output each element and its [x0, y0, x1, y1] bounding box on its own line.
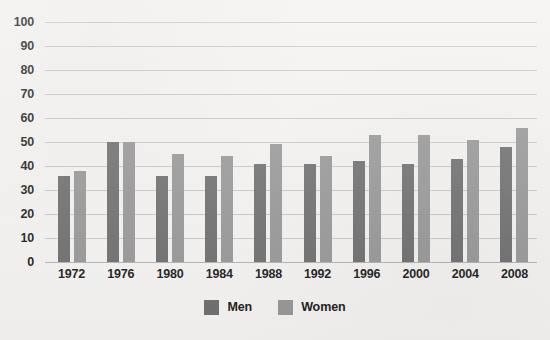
y-tick-label-0: 0 — [27, 256, 34, 269]
bar-women-2004[interactable] — [467, 140, 479, 262]
legend-entry-men[interactable]: Men — [204, 300, 252, 315]
bar-women-1980[interactable] — [172, 154, 184, 262]
y-tick-label-50: 50 — [20, 136, 34, 149]
bar-men-1976[interactable] — [107, 142, 119, 262]
chart-legend: MenWomen — [0, 300, 550, 315]
bar-group-1972 — [58, 22, 86, 262]
legend-swatch-icon-women — [278, 300, 293, 315]
bar-women-1996[interactable] — [369, 135, 381, 262]
bar-group-1996 — [353, 22, 381, 262]
x-tick-label-2004: 2004 — [441, 268, 489, 281]
bar-women-2000[interactable] — [418, 135, 430, 262]
y-tick-label-100: 100 — [14, 16, 34, 29]
bar-men-2008[interactable] — [500, 147, 512, 262]
bar-group-1976 — [107, 22, 135, 262]
x-tick-label-1980: 1980 — [146, 268, 194, 281]
bar-men-1972[interactable] — [58, 176, 70, 262]
legend-swatch-icon-men — [204, 300, 219, 315]
bar-men-1992[interactable] — [304, 164, 316, 262]
y-axis: 0102030405060708090100 — [0, 0, 42, 340]
y-tick-label-30: 30 — [20, 184, 34, 197]
plot-area — [45, 22, 537, 262]
x-tick-label-1976: 1976 — [97, 268, 145, 281]
bar-women-1976[interactable] — [123, 142, 135, 262]
y-tick-label-90: 90 — [20, 40, 34, 53]
bar-men-1988[interactable] — [254, 164, 266, 262]
x-tick-label-2000: 2000 — [392, 268, 440, 281]
bar-group-2000 — [402, 22, 430, 262]
bar-women-2008[interactable] — [516, 128, 528, 262]
x-tick-label-1996: 1996 — [343, 268, 391, 281]
x-tick-label-1992: 1992 — [294, 268, 342, 281]
bar-group-1988 — [254, 22, 282, 262]
bar-group-1980 — [156, 22, 184, 262]
y-tick-label-40: 40 — [20, 160, 34, 173]
bar-group-1984 — [205, 22, 233, 262]
x-tick-label-1988: 1988 — [244, 268, 292, 281]
legend-entry-women[interactable]: Women — [278, 300, 345, 315]
bar-women-1972[interactable] — [74, 171, 86, 262]
bar-group-2008 — [500, 22, 528, 262]
bar-women-1992[interactable] — [320, 156, 332, 262]
bar-men-2004[interactable] — [451, 159, 463, 262]
bar-group-2004 — [451, 22, 479, 262]
bar-men-1984[interactable] — [205, 176, 217, 262]
x-tick-label-2008: 2008 — [490, 268, 538, 281]
x-tick-label-1972: 1972 — [48, 268, 96, 281]
x-tick-label-1984: 1984 — [195, 268, 243, 281]
bar-chart: 0102030405060708090100 19721976198019841… — [0, 0, 550, 340]
bar-men-1980[interactable] — [156, 176, 168, 262]
bar-men-2000[interactable] — [402, 164, 414, 262]
y-tick-label-20: 20 — [20, 208, 34, 221]
legend-label-women: Women — [301, 301, 345, 314]
legend-label-men: Men — [227, 301, 252, 314]
bar-women-1984[interactable] — [221, 156, 233, 262]
bar-women-1988[interactable] — [270, 144, 282, 262]
bar-group-1992 — [304, 22, 332, 262]
gridline-0 — [45, 262, 537, 263]
y-tick-label-70: 70 — [20, 88, 34, 101]
bar-men-1996[interactable] — [353, 161, 365, 262]
y-tick-label-60: 60 — [20, 112, 34, 125]
y-tick-label-80: 80 — [20, 64, 34, 77]
y-tick-label-10: 10 — [20, 232, 34, 245]
